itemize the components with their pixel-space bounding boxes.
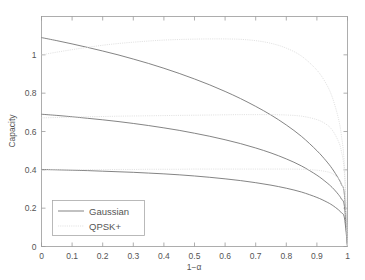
x-tick-label: 0.4	[158, 251, 170, 261]
x-tick-label: 0.7	[250, 251, 262, 261]
legend-label-qpsk: QPSK+	[89, 221, 121, 232]
y-tick-label: 0	[32, 242, 37, 252]
y-tick-label: 0.6	[25, 127, 37, 137]
legend-label-gaussian: Gaussian	[89, 206, 129, 217]
y-axis-title: Capacity	[7, 114, 17, 148]
x-tick-label: 0.9	[311, 251, 323, 261]
y-tick-label: 0.2	[25, 203, 37, 213]
x-tick-label: 0.5	[189, 251, 201, 261]
chart-legend[interactable]: Gaussian QPSK+	[53, 201, 145, 236]
x-axis-title: 1−α	[187, 262, 202, 272]
x-tick-label: 0.1	[66, 251, 78, 261]
chart-figure: 00.10.20.30.40.50.60.70.80.91 00.20.40.6…	[0, 0, 365, 280]
x-tick-label: 1	[345, 251, 350, 261]
y-tick-label: 0.8	[25, 88, 37, 98]
x-axis-tick-labels: 00.10.20.30.40.50.60.70.80.91	[39, 251, 350, 261]
x-tick-label: 0.3	[127, 251, 139, 261]
x-tick-label: 0	[39, 251, 44, 261]
y-axis-tick-labels: 00.20.40.60.81	[25, 50, 37, 252]
y-tick-label: 1	[32, 50, 37, 60]
capacity-vs-alpha-chart: 00.10.20.30.40.50.60.70.80.91 00.20.40.6…	[0, 0, 365, 280]
y-tick-label: 0.4	[25, 165, 37, 175]
x-tick-label: 0.8	[280, 251, 292, 261]
x-tick-label: 0.6	[219, 251, 231, 261]
x-tick-label: 0.2	[97, 251, 109, 261]
